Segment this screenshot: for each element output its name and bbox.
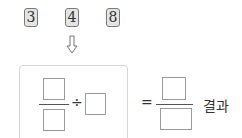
number-tile-3[interactable]: 3 <box>24 8 38 27</box>
number-tile-8[interactable]: 8 <box>106 8 120 27</box>
result-numerator-slot[interactable] <box>162 77 186 100</box>
fraction-bar <box>39 104 69 105</box>
divide-operator: ÷ <box>71 94 83 110</box>
down-arrow-icon <box>66 35 78 54</box>
number-tile-4[interactable]: 4 <box>65 8 79 27</box>
result-denominator-slot[interactable] <box>160 108 192 130</box>
equals-sign: = <box>141 94 153 110</box>
result-fraction-bar <box>156 104 193 105</box>
divisor-slot[interactable] <box>85 93 106 115</box>
dividend-denominator-slot[interactable] <box>43 109 65 131</box>
result-label: 결과 <box>203 95 229 115</box>
dividend-numerator-slot[interactable] <box>43 78 65 100</box>
